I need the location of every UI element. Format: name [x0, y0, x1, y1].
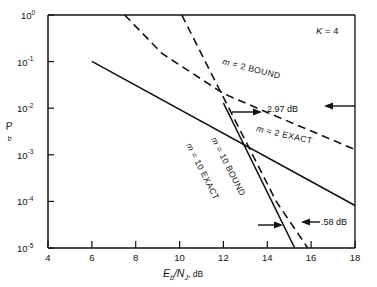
x-tick-label-2: 8 — [133, 252, 138, 263]
y-tick-label-3: 10-3 — [17, 148, 34, 161]
y-axis-tick-labels: 100 10-1 10-2 10-3 10-4 10-5 — [17, 9, 36, 255]
gap-upper-left-arrowhead — [253, 109, 262, 116]
x-axis-ticks — [48, 241, 355, 248]
plot-frame — [48, 15, 355, 248]
gap-lower-label: .58 dB — [321, 217, 347, 227]
x-tick-label-1: 6 — [89, 252, 94, 263]
curve-label-m2-bound: m = 2 BOUND — [221, 56, 281, 81]
annotation-gap-lower: .58 dB — [258, 217, 347, 228]
corner-note-k-value: K = 4 — [316, 25, 338, 36]
x-tick-label-3: 10 — [174, 252, 185, 263]
x-tick-label-5: 14 — [262, 252, 273, 263]
x-axis-title: Eb/NJ, dB — [163, 267, 203, 281]
x-tick-label-0: 4 — [45, 252, 50, 263]
y-tick-label-0: 100 — [21, 9, 36, 22]
figure-container: 100 10-1 10-2 10-3 10-4 10-5 P b — [0, 0, 377, 287]
y-axis-title-subscript: b — [7, 135, 12, 142]
y-axis-ticks — [48, 15, 54, 248]
y-axis-title: P b — [5, 119, 14, 142]
corner-note-text: K = 4 — [316, 25, 338, 36]
x-tick-label-7: 18 — [350, 252, 361, 263]
y-tick-label-5: 10-5 — [17, 242, 34, 255]
curve-group — [92, 15, 355, 248]
chart-svg: 100 10-1 10-2 10-3 10-4 10-5 P b — [0, 0, 377, 287]
gap-upper-label: 2.97 dB — [267, 104, 298, 114]
y-tick-label-4: 10-4 — [17, 195, 34, 208]
curve-labels: m = 2 BOUND m = 2 EXACT m = 10 BOUND m =… — [184, 56, 314, 202]
gap-lower-right-arrowhead — [301, 219, 310, 226]
y-axis-title-symbol: P — [5, 119, 14, 132]
x-tick-label-4: 12 — [218, 252, 229, 263]
y-tick-label-2: 10-2 — [17, 102, 34, 115]
x-tick-label-6: 16 — [306, 252, 317, 263]
gap-upper-right-arrowhead — [324, 103, 333, 110]
curve-label-m2-exact: m = 2 EXACT — [256, 123, 314, 146]
x-axis-tick-labels: 4 6 8 10 12 14 16 18 — [45, 252, 360, 263]
x-axis-title-text: Eb/NJ, dB — [163, 267, 203, 281]
y-tick-label-1: 10-1 — [17, 55, 34, 68]
